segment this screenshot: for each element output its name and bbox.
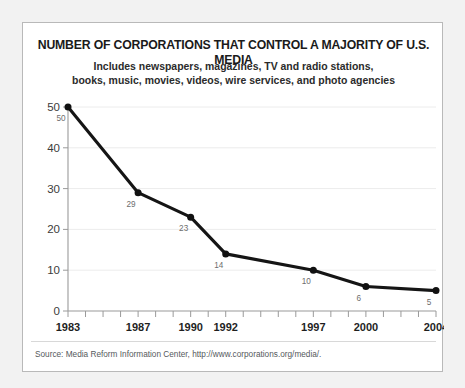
x-axis-label: 2000 xyxy=(354,321,378,333)
data-point-marker xyxy=(310,267,317,274)
data-point-marker xyxy=(362,283,369,290)
chart-subtitle-line-1: Includes newspapers, magazines, TV and r… xyxy=(34,59,434,73)
x-axis-label: 1983 xyxy=(56,321,80,333)
y-axis-label: 30 xyxy=(47,183,60,195)
y-axis-label: 10 xyxy=(47,264,60,276)
y-axis-label: 50 xyxy=(47,101,60,113)
data-point-label: 6 xyxy=(357,294,362,303)
plot-area: 0102030405019831987199019921997200020045… xyxy=(23,95,444,339)
data-point-label: 29 xyxy=(127,200,137,209)
data-point-label: 50 xyxy=(56,114,66,123)
x-axis-label: 1992 xyxy=(213,321,237,333)
line-chart: 0102030405019831987199019921997200020045… xyxy=(23,95,444,339)
y-axis-label: 0 xyxy=(54,305,60,317)
data-point-label: 23 xyxy=(179,224,189,233)
source-note: Source: Media Reform Information Center,… xyxy=(35,349,321,359)
data-point-label: 5 xyxy=(427,298,432,307)
chart-card: NUMBER OF CORPORATIONS THAT CONTROL A MA… xyxy=(22,22,443,372)
data-point-marker xyxy=(187,214,194,221)
footer-divider xyxy=(31,341,436,342)
x-axis-label: 1990 xyxy=(178,321,202,333)
chart-subtitle-line-2: books, music, movies, videos, wire servi… xyxy=(34,73,434,87)
x-axis-label: 1997 xyxy=(301,321,325,333)
chart-subtitle: Includes newspapers, magazines, TV and r… xyxy=(34,59,434,87)
data-point-marker xyxy=(433,287,440,294)
data-point-marker xyxy=(222,250,229,257)
data-point-label: 14 xyxy=(214,261,224,270)
y-axis-label: 40 xyxy=(47,142,60,154)
data-point-marker xyxy=(135,189,142,196)
x-axis-label: 1987 xyxy=(126,321,150,333)
data-point-marker xyxy=(65,104,72,111)
data-line xyxy=(68,107,436,291)
x-axis-label: 2004 xyxy=(424,321,444,333)
y-axis-label: 20 xyxy=(47,223,60,235)
data-point-label: 10 xyxy=(302,277,312,286)
